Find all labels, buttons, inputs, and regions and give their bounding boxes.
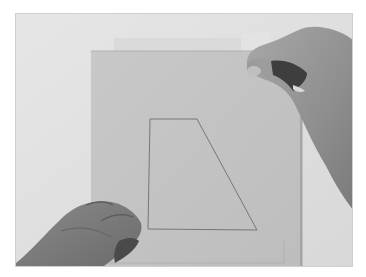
- photo-frame: [15, 13, 353, 267]
- photo-scene: [16, 14, 353, 267]
